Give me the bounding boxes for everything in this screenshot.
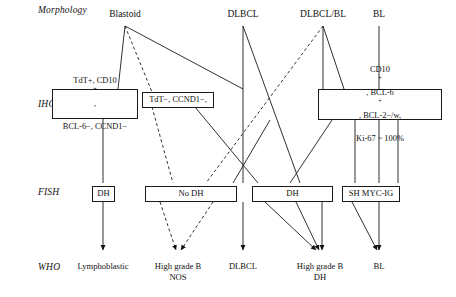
arrow-to-who-high-grade-b-nos-left [160,202,176,250]
who-item-lymphoblastic: Lymphoblastic [77,261,128,272]
diagram-canvas: Morphology IHC FISH WHO Blastoid DLBCL D… [0,0,456,297]
ihc-box-tdt-positive: TdT+, CD10+, BCL-6−, CCND1− [52,89,138,119]
who-item-high-grade-b-nos: High grade B NOS [155,261,201,283]
ihc-box-tdt-negative: TdT−, CCND1−, [142,92,214,108]
edge-ihc2-to-fish-dh-right [195,107,258,183]
edge-dlbcl-to-fish-dh-right [243,26,300,183]
ihc-box-germinal-center-line2: Ki-67 ~ 100% [322,133,438,145]
who-item-high-grade-b-nos-line2: NOS [155,272,201,283]
row-label-who: WHO [38,262,60,272]
row-label-morphology: Morphology [38,5,87,15]
superscript-plus-cd10: + [378,75,381,81]
superscript-plus: + [93,86,96,92]
arrow-to-who-high-grade-b-dh-b [296,202,319,250]
fish-box-dh-right: DH [252,186,333,202]
who-item-dlbcl: DLBCL [229,261,257,272]
morphology-item-bl: BL [373,9,385,19]
edge-ihc2-to-fish-no-dh-dashed [152,107,173,183]
fish-box-dh-left: DH [92,186,115,202]
edge-dlbclbl-to-fish-no-dh-dashed [206,26,323,183]
who-item-high-grade-b-dh-line1: High grade B [297,261,343,272]
ihc-box-tdt-positive-line2: BCL-6−, CCND1− [56,121,134,133]
fish-box-sh-myc-ig-label: SH MYC-IG [346,188,396,200]
who-item-high-grade-b-dh: High grade B DH [297,261,343,283]
arrow-to-who-bl-a [352,202,377,250]
edge-ihc3-left-to-no-dh [233,120,270,183]
connector-layer [0,0,456,297]
who-item-bl-line1: BL [374,261,385,272]
ihc-box-tdt-negative-line1: TdT−, CCND1−, [146,94,210,106]
morphology-item-blastoid: Blastoid [109,9,141,19]
who-item-lymphoblastic-line1: Lymphoblastic [77,261,128,272]
arrow-to-who-high-grade-b-nos-right [181,202,213,250]
row-label-fish: FISH [38,187,59,197]
ihc-box-germinal-center-line1: CD10+, BCL-6+, BCL-2−/w, [322,64,438,122]
fish-to-who-connectors [103,202,379,250]
fish-box-sh-myc-ig: SH MYC-IG [342,186,400,202]
superscript-plus-bcl6: + [378,98,381,104]
fish-box-no-dh-label: No DH [149,188,233,200]
ihc-box-germinal-center: CD10+, BCL-6+, BCL-2−/w, Ki-67 ~ 100% [318,89,442,120]
fish-box-dh-right-label: DH [256,188,329,200]
morphology-item-dlbcl-bl: DLBCL/BL [300,9,346,19]
ihc-box-tdt-positive-line1: TdT+, CD10+, [56,75,134,110]
fish-box-dh-left-label: DH [96,188,111,200]
arrow-to-who-high-grade-b-dh-a [265,202,316,250]
who-item-bl: BL [374,261,385,272]
edge-blastoid-to-ihc-germinal-right [125,26,243,89]
fish-box-no-dh: No DH [145,186,237,202]
who-item-high-grade-b-nos-line1: High grade B [155,261,201,272]
morphology-item-dlbcl: DLBCL [227,9,258,19]
who-item-dlbcl-line1: DLBCL [229,261,257,272]
who-item-high-grade-b-dh-line2: DH [297,272,343,283]
